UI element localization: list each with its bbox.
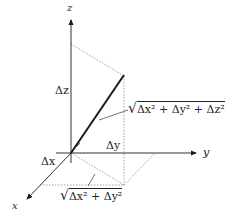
dy-label: Δy: [106, 140, 120, 151]
dz-label: Δz: [55, 85, 69, 96]
z-axis-label: z: [67, 3, 72, 13]
formula-3d-distance: √Δx² + Δy² + Δz²: [128, 101, 225, 115]
formula-2d-distance: √Δx² + Δy²: [60, 188, 122, 202]
y-axis-label: y: [203, 147, 209, 158]
dx-label: Δx: [41, 156, 55, 167]
diagram-3d-distance: z y x Δz Δy Δx √Δx² + Δy² + Δz² √Δx² + Δ…: [0, 0, 232, 222]
x-axis-label: x: [12, 201, 18, 211]
